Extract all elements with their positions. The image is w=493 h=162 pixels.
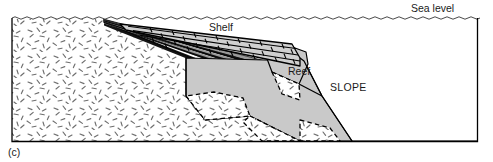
cross-section-drawing: [0, 0, 493, 162]
panel-label: (c): [8, 146, 20, 158]
label-slope: SLOPE: [330, 81, 367, 93]
label-shelf: Shelf: [209, 21, 233, 33]
label-sea-level: Sea level: [411, 2, 454, 14]
label-reef: Reef: [288, 65, 310, 77]
figure-panel: Sea level Shelf Reef SLOPE (c): [0, 0, 493, 162]
